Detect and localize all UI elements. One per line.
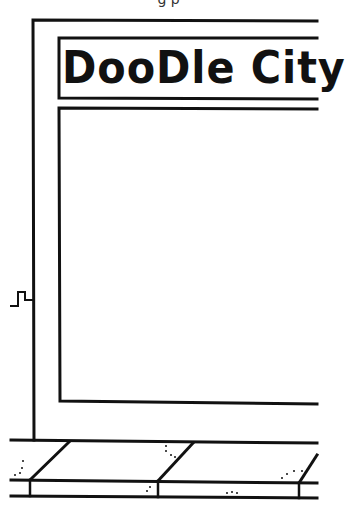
store-sign-title: DooDle City [62,40,301,96]
ground-line [11,440,317,443]
cropped-caption: g p [0,0,337,7]
slab-divider-2 [158,443,193,481]
slab-divider-1 [30,442,69,480]
wall-bracket [11,292,33,306]
curb-bottom [11,496,317,498]
window-frame [59,108,317,404]
curb-top [11,480,317,483]
slab-divider-3 [299,455,317,483]
